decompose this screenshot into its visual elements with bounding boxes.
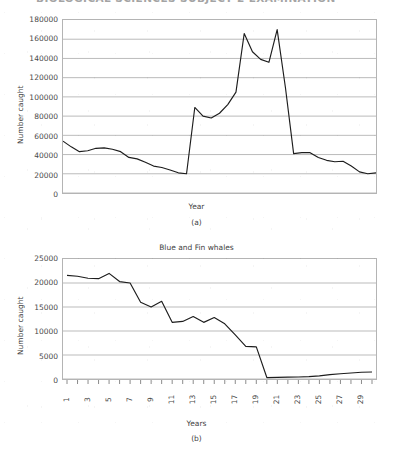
x-tick-label: 27 (335, 395, 344, 405)
x-tick-label: 11 (167, 395, 176, 405)
x-tick-label: 25 (314, 395, 323, 405)
x-tick-label: 9 (146, 397, 155, 402)
figure-a-line-svg (63, 20, 376, 193)
y-tick-label: 100000 (0, 92, 58, 101)
running-heading-text: BIOLOGICAL SCIENCES SUBJECT 2 EXAMINATIO… (36, 0, 336, 4)
data-line (63, 30, 376, 174)
x-tick-label: 23 (293, 395, 302, 405)
x-tick-label: 19 (251, 395, 260, 405)
x-tick-label: 1 (62, 397, 71, 402)
x-tick-label: 5 (104, 397, 113, 402)
figure-a: Number caught 02000040000600008000010000… (0, 14, 393, 236)
y-tick-label: 120000 (0, 73, 58, 82)
y-tick-label: 140000 (0, 53, 58, 62)
x-tick-label: 3 (83, 397, 92, 402)
page: BIOLOGICAL SCIENCES SUBJECT 2 EXAMINATIO… (0, 0, 393, 453)
y-tick-label: 80000 (0, 112, 58, 121)
figure-b-x-axis-label: Years (0, 419, 393, 428)
figure-a-plot-area (62, 19, 377, 194)
y-tick-label: 0 (0, 190, 58, 199)
x-tick-label: 7 (125, 397, 134, 402)
y-tick-label: 20000 (0, 170, 58, 179)
y-tick-label: 160000 (0, 34, 58, 43)
y-tick-label: 180000 (0, 15, 58, 24)
page-running-heading: BIOLOGICAL SCIENCES SUBJECT 2 EXAMINATIO… (0, 0, 393, 9)
y-tick-label: 60000 (0, 131, 58, 140)
x-tick-label: 17 (230, 395, 239, 405)
y-tick-label: 40000 (0, 151, 58, 160)
x-tick-label: 29 (356, 395, 365, 405)
figure-a-x-axis-label: Year (0, 202, 393, 211)
figure-b-panel-letter: (b) (0, 434, 393, 443)
x-tick-label: 13 (188, 395, 197, 405)
x-tick-label: 15 (209, 395, 218, 405)
x-tick-label: 21 (272, 395, 281, 405)
figure-b: Blue and Fin whales Number caught 050001… (0, 243, 393, 449)
figure-a-panel-letter: (a) (0, 218, 393, 227)
